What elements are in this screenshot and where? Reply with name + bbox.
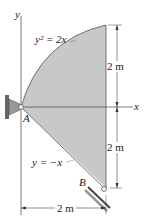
lower-curve-label: y = −x (32, 157, 62, 168)
x-axis-label: x (134, 101, 139, 112)
lower-height-dim: 2 m (107, 142, 124, 153)
pin-A (19, 105, 24, 110)
y-axis-label: y (15, 9, 20, 20)
upper-curve-label: y² = 2x (35, 34, 67, 45)
point-B-label: B (79, 177, 86, 188)
point-A-label: A (23, 113, 30, 124)
width-dim: 2 m (55, 203, 76, 214)
roller-B (102, 187, 107, 192)
wall-plate (5, 95, 9, 119)
upper-height-dim: 2 m (107, 61, 124, 72)
